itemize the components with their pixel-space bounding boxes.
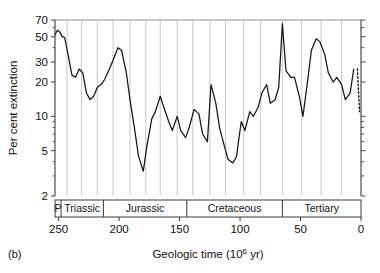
extinction-curve-dashed-tail <box>357 69 359 112</box>
x-tick-label: 100 <box>230 223 249 235</box>
plot-frame <box>55 20 361 196</box>
y-tick-label: 10 <box>35 110 48 122</box>
x-tick-label: 0 <box>358 223 364 235</box>
y-axis-title: Per cent extinction <box>7 61 19 156</box>
x-tick-label: 250 <box>49 223 68 235</box>
y-tick-label: 30 <box>35 56 48 68</box>
chart-svg: 251020305070 PTriassicJurassicCretaceous… <box>0 0 380 273</box>
x-tick-label: 150 <box>170 223 189 235</box>
x-tick-label: 50 <box>294 223 307 235</box>
period-band-label: P <box>55 202 62 214</box>
period-band-label: Triassic <box>64 202 100 214</box>
y-tick-label: 2 <box>42 190 48 202</box>
y-tick-label: 50 <box>35 31 48 43</box>
stage-gridlines <box>67 20 342 196</box>
y-tick-label: 70 <box>35 14 48 26</box>
x-tick-label: 200 <box>110 223 129 235</box>
period-band-label: Tertiary <box>304 202 339 214</box>
y-tick-label: 5 <box>42 145 48 157</box>
extinction-curve <box>55 24 354 172</box>
y-tick-label: 20 <box>35 76 48 88</box>
y-axis: 251020305070 <box>35 14 55 202</box>
y-axis-right-minor-ticks <box>361 20 366 196</box>
x-axis-title: Geologic time (106 yr) <box>152 247 263 261</box>
period-band-label: Jurassic <box>126 202 165 214</box>
period-band-label: Cretaceous <box>208 202 262 214</box>
geologic-period-bar: PTriassicJurassicCretaceousTertiary <box>55 200 361 217</box>
extinction-rate-figure: 251020305070 PTriassicJurassicCretaceous… <box>0 0 380 273</box>
x-axis: 250200150100500 <box>49 217 364 235</box>
panel-label: (b) <box>8 248 21 260</box>
